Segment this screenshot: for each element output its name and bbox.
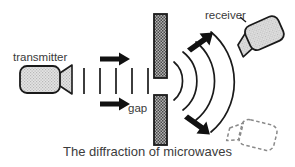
label-receiver: receiver — [205, 10, 246, 22]
diffraction-diagram — [0, 0, 295, 167]
label-transmitter: transmitter — [13, 52, 67, 64]
metal-barrier-lower — [154, 95, 167, 145]
incident-arrows — [100, 53, 130, 111]
label-gap: gap — [128, 103, 147, 115]
diffracted-arrows — [184, 33, 213, 135]
arrow-down-right-icon — [184, 115, 210, 135]
transmitter-body — [20, 66, 60, 93]
barrier-group — [154, 14, 167, 145]
arrow-right-icon — [100, 98, 130, 111]
ghost-receiver-horn-icon — [227, 120, 244, 143]
circular-wavefront — [196, 42, 215, 120]
circular-wavefronts — [174, 32, 234, 132]
transmitter-group — [20, 65, 72, 94]
diffraction-figure: transmitter receiver gap The diffraction… — [0, 0, 295, 167]
metal-barrier-upper — [154, 14, 167, 78]
circular-wavefront — [174, 62, 183, 100]
figure-caption: The diffraction of microwaves — [0, 145, 295, 158]
arrow-right-icon — [100, 53, 130, 66]
circular-wavefront — [183, 52, 197, 110]
arrow-up-right-icon — [187, 33, 213, 53]
plane-wavefronts — [84, 68, 148, 94]
